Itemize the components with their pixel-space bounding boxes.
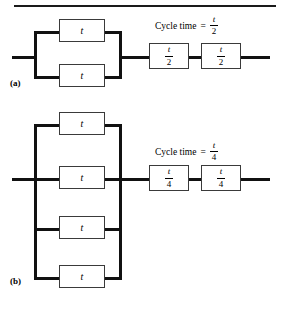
wire-input-lead-b [12,178,36,181]
station-fraction-a-series-2: t 2 [217,45,226,66]
cycle-time-equals-a: = [200,21,205,31]
fraction-denominator: 2 [165,58,174,67]
station-label-b-parallel-3: t [81,223,84,233]
wire-branch-b-4-right [104,277,122,280]
station-box-b-series-1[interactable]: t 4 [149,165,189,191]
station-label-b-parallel-4: t [81,272,84,282]
station-box-a-series-1[interactable]: t 2 [149,43,189,69]
station-label-b-parallel-2: t [81,173,84,183]
wire-branch-a-1-right [104,31,122,34]
wire-branch-b-3-right [104,228,122,231]
station-label-a-parallel-2: t [81,71,84,81]
fraction-denominator: 2 [210,27,219,36]
station-fraction-a-series-1: t 2 [165,45,174,66]
station-fraction-b-series-2: t 4 [217,167,226,188]
station-box-b-parallel-2[interactable]: t [59,166,105,189]
panel-label-b: (b) [10,276,21,286]
wire-output-lead-b [240,178,270,181]
cycle-time-text-a: Cycle time [155,21,196,31]
wire-between-series-a [188,56,202,59]
fraction-denominator: 4 [165,180,174,189]
cycle-time-equals-b: = [200,147,205,157]
cycle-time-fraction-b: t 4 [210,141,219,162]
wire-branch-b-1-left [34,124,60,127]
fraction-denominator: 2 [217,58,226,67]
wire-merge-b [119,178,150,181]
top-divider-rule [14,5,276,7]
fraction-numerator: t [165,167,174,176]
station-fraction-b-series-1: t 4 [165,167,174,188]
wire-branch-b-4-left [34,277,60,280]
station-box-a-parallel-2[interactable]: t [59,64,105,87]
wire-branch-b-1-right [104,124,122,127]
panel-label-a: (a) [10,78,21,88]
wire-between-series-b [188,178,202,181]
figure-canvas: (a) t t t 2 [0,0,285,312]
wire-branch-a-1-left [34,31,60,34]
fraction-denominator: 4 [217,180,226,189]
station-box-b-parallel-4[interactable]: t [59,265,105,288]
cycle-time-fraction-a: t 2 [210,15,219,36]
cycle-time-text-b: Cycle time [155,147,196,157]
wire-left-bus-a [34,31,37,79]
station-box-b-parallel-3[interactable]: t [59,216,105,239]
station-label-a-parallel-1: t [81,26,84,36]
cycle-time-caption-b: Cycle time = t 4 [155,141,218,162]
fraction-denominator: 4 [210,153,219,162]
wire-input-lead-a [12,56,36,59]
wire-branch-b-3-left [34,228,60,231]
fraction-numerator: t [217,167,226,176]
fraction-numerator: t [210,15,219,24]
station-box-a-parallel-1[interactable]: t [59,19,105,42]
wire-left-bus-b [34,124,37,280]
station-label-b-parallel-1: t [81,119,84,129]
fraction-numerator: t [165,45,174,54]
fraction-numerator: t [217,45,226,54]
wire-merge-a [119,56,150,59]
station-box-b-parallel-1[interactable]: t [59,112,105,135]
wire-branch-a-2-left [34,76,60,79]
cycle-time-caption-a: Cycle time = t 2 [155,15,218,36]
wire-right-bus-a [119,31,122,79]
station-box-a-series-2[interactable]: t 2 [201,43,241,69]
wire-branch-a-2-right [104,76,122,79]
wire-output-lead-a [240,56,270,59]
wire-right-bus-b [119,124,122,280]
fraction-numerator: t [210,141,219,150]
station-box-b-series-2[interactable]: t 4 [201,165,241,191]
wire-branch-b-2-left [34,178,60,181]
